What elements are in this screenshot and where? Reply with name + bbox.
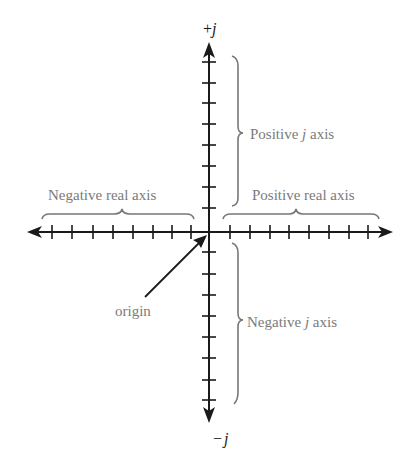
positive-real-brace [223, 209, 379, 219]
positive-real-axis-label: Positive real axis [252, 187, 355, 203]
minus-j-label: −j [213, 430, 229, 448]
negative-real-axis-label: Negative real axis [48, 187, 156, 203]
positive-j-axis-label: Positive j axis [250, 126, 334, 142]
negative-j-brace [232, 243, 243, 404]
positive-j-brace [232, 56, 243, 206]
complex-plane-diagram: +j −j Positive j axis Negative j axis Ne… [0, 0, 417, 462]
origin-label: origin [115, 303, 151, 319]
origin-pointer-arrow [145, 235, 207, 297]
negative-real-brace [42, 209, 194, 219]
negative-j-axis-label: Negative j axis [247, 314, 337, 330]
plus-j-label: +j [203, 20, 217, 38]
